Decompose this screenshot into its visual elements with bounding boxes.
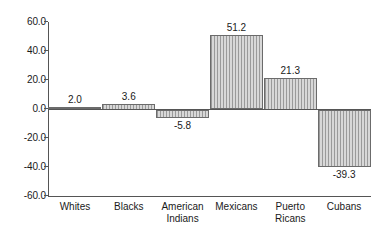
x-axis-category-blacks: Blacks bbox=[102, 201, 156, 213]
bar-value-label: 51.2 bbox=[195, 22, 278, 33]
x-axis-category-mexicans: Mexicans bbox=[210, 201, 264, 213]
y-axis-tick-3: 0.0 bbox=[0, 104, 46, 114]
y-axis-tick-label: -60.0 bbox=[2, 191, 46, 201]
bar-chart: 60.0 40.0 20.0 0.0 -20.0 -40.0 -60.0 2.0… bbox=[0, 0, 389, 240]
bar bbox=[264, 78, 317, 109]
x-axis-category-puerto-ricans: PuertoRicans bbox=[263, 201, 317, 224]
x-axis-category-cubans: Cubans bbox=[317, 201, 371, 213]
y-axis-tick-label: -40.0 bbox=[2, 162, 46, 172]
x-axis-category-line: Ricans bbox=[263, 213, 317, 225]
x-axis-category-line: Mexicans bbox=[210, 201, 264, 213]
y-axis-tick-label: 40.0 bbox=[2, 46, 46, 56]
y-axis-tick-label: 20.0 bbox=[2, 75, 46, 85]
y-axis-tick-6: -60.0 bbox=[0, 191, 46, 201]
x-axis-category-american-indians: AmericanIndians bbox=[156, 201, 210, 224]
y-axis-tick-label: 60.0 bbox=[2, 17, 46, 27]
y-axis-tick-0: 60.0 bbox=[0, 17, 46, 27]
x-axis-category-line: American bbox=[156, 201, 210, 213]
x-axis-category-whites: Whites bbox=[48, 201, 102, 213]
x-axis-category-line: Blacks bbox=[102, 201, 156, 213]
bar-value-label: -5.8 bbox=[141, 120, 224, 131]
bar-value-label: 3.6 bbox=[87, 91, 170, 102]
bar bbox=[156, 110, 209, 118]
y-axis-tick-label: -20.0 bbox=[2, 133, 46, 143]
bar-value-label: 21.3 bbox=[249, 65, 332, 76]
zero-baseline bbox=[48, 109, 371, 110]
x-axis-category-line: Indians bbox=[156, 213, 210, 225]
bar-value-label: -39.3 bbox=[303, 169, 386, 180]
y-axis-tick-2: 20.0 bbox=[0, 75, 46, 85]
y-axis-tick-label: 0.0 bbox=[2, 104, 46, 114]
x-axis-category-line: Puerto bbox=[263, 201, 317, 213]
y-axis-tick-5: -40.0 bbox=[0, 162, 46, 172]
x-axis-category-line: Cubans bbox=[317, 201, 371, 213]
bar bbox=[318, 110, 371, 167]
y-axis-tick-4: -20.0 bbox=[0, 133, 46, 143]
x-axis-category-line: Whites bbox=[48, 201, 102, 213]
y-axis-tick-1: 40.0 bbox=[0, 46, 46, 56]
